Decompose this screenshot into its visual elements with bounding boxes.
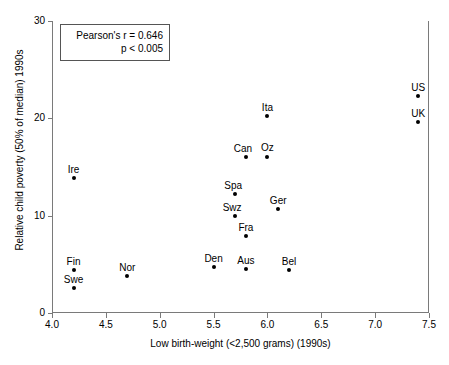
y-axis-tick [48, 118, 53, 119]
x-axis-tick-label: 5.0 [140, 319, 180, 330]
data-point-label: Can [234, 143, 252, 154]
data-point-label: Den [204, 253, 222, 264]
data-point-marker [212, 265, 216, 269]
x-axis-tick [375, 313, 376, 318]
data-point-label: Fra [238, 222, 253, 233]
x-axis-tick-label: 7.0 [355, 319, 395, 330]
data-point-marker [244, 234, 248, 238]
y-axis-tick [48, 216, 53, 217]
x-axis-tick-label: 7.5 [409, 319, 449, 330]
data-point-label: Nor [119, 262, 135, 273]
data-point-label: Ita [262, 102, 273, 113]
data-point-label: UK [411, 108, 425, 119]
x-axis-title: Low birth-weight (<2,500 grams) (1990s) [52, 338, 429, 349]
data-point-label: Spa [224, 180, 242, 191]
data-point-label: Swz [223, 202, 242, 213]
data-point-label: Fin [67, 256, 81, 267]
x-axis-tick-label: 5.5 [194, 319, 234, 330]
data-point-label: Bel [282, 256, 296, 267]
y-axis-tick [48, 313, 53, 314]
y-axis-tick [48, 21, 53, 22]
plot-area [52, 21, 429, 313]
data-point-marker [72, 176, 76, 180]
data-point-label: Oz [261, 142, 274, 153]
pearson-r-text: Pearson's r = 0.646 [67, 29, 163, 42]
x-axis-tick-label: 6.5 [301, 319, 341, 330]
p-value-text: p < 0.005 [67, 42, 163, 55]
x-axis-tick [429, 313, 430, 318]
x-axis-tick-label: 4.0 [32, 319, 72, 330]
data-point-label: Ire [68, 164, 80, 175]
x-axis-tick [160, 313, 161, 318]
x-axis-tick [321, 313, 322, 318]
data-point-marker [72, 268, 76, 272]
x-axis-tick-label: 6.0 [247, 319, 287, 330]
data-point-label: Aus [237, 255, 254, 266]
data-point-marker [72, 286, 76, 290]
data-point-label: Ger [270, 195, 287, 206]
x-axis-tick [214, 313, 215, 318]
x-axis-tick [267, 313, 268, 318]
data-point-label: US [411, 82, 425, 93]
y-axis-title: Relative child poverty (50% of median) 1… [14, 4, 25, 296]
statistics-annotation-box: Pearson's r = 0.646 p < 0.005 [60, 24, 170, 61]
data-point-marker [233, 214, 237, 218]
x-axis-tick [106, 313, 107, 318]
scatter-plot-figure: 4.04.55.05.56.06.57.07.50102030 USUKItaC… [0, 0, 449, 365]
y-axis-tick-label: 0 [19, 307, 45, 318]
data-point-label: Swe [64, 274, 83, 285]
x-axis-tick-label: 4.5 [86, 319, 126, 330]
